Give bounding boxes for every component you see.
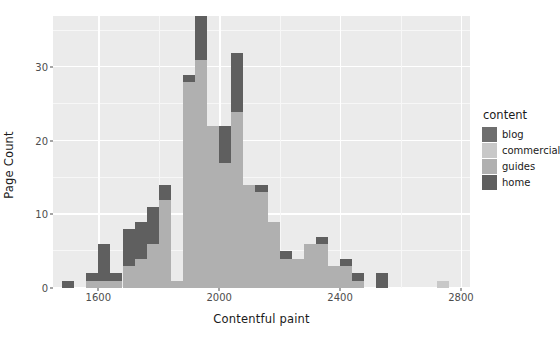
gridline-vertical-minor (280, 16, 281, 288)
histogram-bar (86, 273, 98, 288)
x-tick-label: 2000 (206, 292, 231, 303)
plot-panel (53, 16, 470, 288)
histogram-bar-segment-guides (255, 192, 267, 288)
histogram-bar-segment-home (219, 126, 231, 163)
histogram-bar (304, 244, 316, 288)
gridline-horizontal (53, 66, 470, 67)
histogram-bar-segment-home (110, 273, 122, 280)
x-tick-mark (219, 288, 220, 291)
gridline-horizontal-minor (53, 103, 470, 104)
histogram-bar (352, 273, 364, 288)
histogram-bar (98, 244, 110, 288)
histogram-bar-segment-home (255, 185, 267, 192)
histogram-bar-segment-guides (292, 259, 304, 288)
histogram-bar-segment-home (340, 259, 352, 266)
histogram-bar (110, 273, 122, 288)
legend-swatch-icon (482, 175, 497, 190)
legend-item-label: home (502, 177, 530, 188)
histogram-bar-segment-home (376, 273, 388, 288)
histogram-bar-segment-guides (207, 126, 219, 288)
legend-items: blogcommercialguideshome (482, 126, 560, 190)
histogram-bar-segment-guides (340, 266, 352, 288)
histogram-bar-segment-guides (219, 163, 231, 288)
y-tick-label: 30 (18, 62, 48, 73)
histogram-bar-segment-guides (183, 82, 195, 288)
histogram-bar-segment-guides (110, 281, 122, 288)
x-tick-label: 2800 (448, 292, 473, 303)
histogram-chart: 0102030 Page Count 1600200024002800 Cont… (0, 0, 560, 342)
histogram-bar (340, 259, 352, 288)
histogram-bar-segment-guides (86, 281, 98, 288)
histogram-bar-segment-guides (268, 222, 280, 288)
histogram-bar-segment-home (123, 229, 135, 266)
histogram-bar (376, 273, 388, 288)
gridline-vertical (461, 16, 462, 288)
histogram-bar-segment-home (316, 237, 328, 244)
histogram-bar (62, 281, 74, 288)
x-tick-mark (340, 288, 341, 291)
legend-title: content (483, 108, 560, 122)
histogram-bar (280, 251, 292, 288)
histogram-bar-segment-home (86, 273, 98, 280)
histogram-bar (207, 126, 219, 288)
histogram-bar-segment-guides (352, 281, 364, 288)
y-axis: 0102030 (13, 16, 48, 288)
histogram-bar (243, 185, 255, 288)
histogram-bar (292, 259, 304, 288)
x-tick-mark (98, 288, 99, 291)
histogram-bar-segment-home (135, 222, 147, 259)
histogram-bar (437, 281, 449, 288)
histogram-bar-segment-guides (328, 266, 340, 288)
gridline-horizontal-minor (53, 177, 470, 178)
histogram-bar (123, 229, 135, 288)
histogram-bar (147, 207, 159, 288)
legend-item-commercial[interactable]: commercial (482, 142, 560, 158)
histogram-bar-segment-guides (316, 244, 328, 288)
legend-item-guides[interactable]: guides (482, 158, 560, 174)
y-tick-label: 0 (18, 283, 48, 294)
histogram-bar-segment-home (280, 251, 292, 258)
gridline-vertical-minor (401, 16, 402, 288)
legend-item-label: guides (502, 161, 535, 172)
legend: content blogcommercialguideshome (482, 108, 560, 190)
x-axis: 1600200024002800 (53, 288, 470, 308)
histogram-bar (183, 75, 195, 288)
histogram-bar-segment-guides (123, 266, 135, 288)
histogram-bar (328, 266, 340, 288)
histogram-bar (195, 16, 207, 288)
x-tick-label: 2400 (327, 292, 352, 303)
legend-item-home[interactable]: home (482, 174, 560, 190)
histogram-bar-segment-home (159, 185, 171, 200)
histogram-bar (159, 185, 171, 288)
histogram-bar (135, 222, 147, 288)
legend-swatch-icon (482, 159, 497, 174)
histogram-bar-segment-home (352, 273, 364, 280)
histogram-bar-segment-home (183, 75, 195, 82)
histogram-bar (171, 281, 183, 288)
x-axis-title: Contentful paint (53, 312, 470, 326)
legend-swatch-icon (482, 143, 497, 158)
histogram-bar-segment-guides (304, 244, 316, 288)
y-axis-title: Page Count (2, 100, 16, 230)
histogram-bar-segment-home (62, 281, 74, 288)
histogram-bar-segment-guides (135, 259, 147, 288)
histogram-bar-segment-guides (231, 112, 243, 288)
histogram-bar-segment-guides (147, 244, 159, 288)
legend-item-label: blog (502, 129, 524, 140)
histogram-bar-segment-guides (280, 259, 292, 288)
histogram-bar (255, 185, 267, 288)
legend-item-label: commercial (502, 145, 560, 156)
gridline-horizontal (53, 140, 470, 141)
histogram-bar-segment-commercial (437, 281, 449, 288)
legend-item-blog[interactable]: blog (482, 126, 560, 142)
histogram-bar-segment-guides (98, 281, 110, 288)
histogram-bar (316, 237, 328, 288)
y-tick-label: 20 (18, 135, 48, 146)
histogram-bar-segment-home (98, 244, 110, 281)
histogram-bar-segment-guides (195, 60, 207, 288)
histogram-bar-segment-guides (243, 185, 255, 288)
x-tick-label: 1600 (86, 292, 111, 303)
gridline-horizontal-minor (53, 30, 470, 31)
histogram-bar (219, 126, 231, 288)
histogram-bar-segment-home (147, 207, 159, 244)
